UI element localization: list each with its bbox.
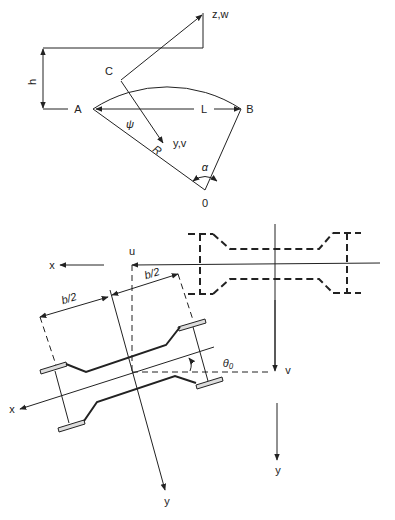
arch-curve <box>93 87 241 109</box>
point-a-label: A <box>74 103 82 115</box>
outline-top <box>66 327 180 372</box>
local-y-label: y <box>164 495 170 507</box>
rise-label: h <box>26 79 38 85</box>
global-y-label: y <box>275 464 281 476</box>
extension-line-right <box>178 274 193 320</box>
alpha-label: α <box>202 161 209 173</box>
radius-label: R <box>151 143 165 157</box>
half-width-label-right: b/2 <box>143 265 161 281</box>
local-x-label: x <box>9 403 15 415</box>
arch-section-figure: h L A B C 0 z,w y,v ψ R α x u <box>0 0 395 520</box>
u-displacement-arrow <box>132 263 380 265</box>
extension-line-left <box>40 317 57 368</box>
local-x-arrow <box>20 347 214 409</box>
flange-top-left <box>40 362 67 374</box>
u-label: u <box>129 245 135 257</box>
alpha-arc <box>193 177 217 182</box>
section-diagram: x u v y x <box>9 224 380 507</box>
local-y-arrow <box>110 290 165 490</box>
radius-line-left <box>93 109 205 190</box>
global-x-label: x <box>49 259 55 271</box>
normal-axis-label: y,v <box>173 137 187 149</box>
point-b-label: B <box>246 103 253 115</box>
theta-label: θ₀ <box>223 357 234 369</box>
point-c-label: C <box>105 65 113 77</box>
end-web-right <box>193 327 208 381</box>
dashed-outline-bottom <box>213 279 333 294</box>
v-label: v <box>285 364 291 376</box>
half-width-label-left: b/2 <box>60 290 78 306</box>
theta-angle-arc <box>189 358 191 371</box>
flange-bottom-right <box>196 377 223 389</box>
dashed-outline-top <box>213 233 333 249</box>
point-o-label: 0 <box>202 197 208 209</box>
flange-bottom-left <box>58 420 85 432</box>
psi-label: ψ <box>126 118 134 130</box>
span-label: L <box>201 103 207 115</box>
tangent-axis-label: z,w <box>212 8 229 20</box>
flange-top-right <box>178 319 206 331</box>
arch-diagram: h L A B C 0 z,w y,v ψ R α <box>26 8 254 209</box>
